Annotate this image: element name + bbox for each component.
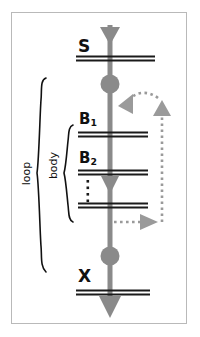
label-loop: loop <box>21 152 32 196</box>
label-b2: B2 <box>79 151 97 166</box>
spine-arrowhead-bottom <box>99 296 121 318</box>
bar-b1 <box>78 133 148 137</box>
body-brace <box>64 125 73 222</box>
dotted-arrowhead-up <box>153 100 171 116</box>
dotted-path-upper <box>130 93 158 99</box>
label-b1: B1 <box>79 112 97 127</box>
label-b1-subscript: 1 <box>90 117 96 128</box>
activation-circle-upper <box>101 75 120 94</box>
loop-brace <box>37 78 46 272</box>
spine-arrowhead-middle <box>101 176 119 194</box>
label-x: X <box>78 268 91 285</box>
activation-circle-lower <box>101 247 120 266</box>
dotted-arrowhead-right <box>140 214 158 230</box>
bar-x <box>76 291 150 295</box>
label-b2-subscript: 2 <box>90 156 96 167</box>
label-b1-base: B <box>79 110 90 128</box>
bar-s <box>76 57 155 61</box>
label-body: body <box>48 144 59 188</box>
dotted-arrowhead-left <box>118 94 133 114</box>
spine-arrowhead-top <box>100 27 120 45</box>
label-b2-base: B <box>79 149 90 167</box>
bar-b2 <box>78 171 148 175</box>
vertical-ellipsis-icon <box>87 180 90 202</box>
label-x-text: X <box>78 266 91 286</box>
bar-n <box>78 204 148 208</box>
diagram-figure: S B1 B2 X loop body <box>0 0 200 337</box>
label-s: S <box>78 38 90 55</box>
label-s-text: S <box>78 36 90 56</box>
